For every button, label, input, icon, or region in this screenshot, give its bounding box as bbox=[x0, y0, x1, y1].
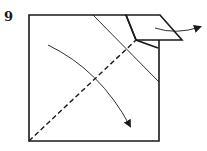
origami-diagram bbox=[0, 0, 207, 151]
valley-fold-line bbox=[29, 40, 136, 141]
